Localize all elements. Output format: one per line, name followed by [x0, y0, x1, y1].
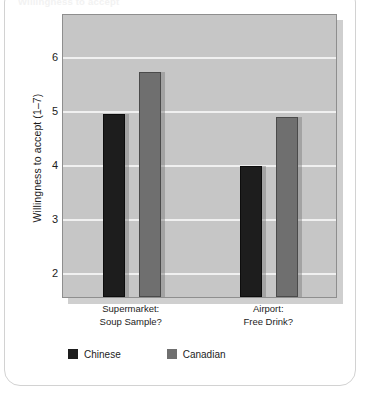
x-axis-group-label: Supermarket:Soup Sample?: [71, 303, 191, 328]
plot-area: [62, 14, 337, 298]
bar-canadian-0: [139, 72, 161, 297]
x-axis-tick-labels: Supermarket:Soup Sample?Airport:Free Dri…: [62, 303, 337, 333]
chart-legend: ChineseCanadian: [62, 345, 337, 363]
legend-label: Chinese: [84, 349, 121, 360]
gridline: [63, 57, 336, 59]
y-axis-tick-labels: 23456: [30, 14, 58, 298]
legend-item-chinese[interactable]: Chinese: [68, 349, 121, 360]
y-axis-tick-label: 2: [34, 267, 58, 279]
legend-item-canadian[interactable]: Canadian: [167, 349, 226, 360]
x-axis-label-line: Supermarket:: [71, 303, 191, 316]
y-axis-tick-label: 5: [34, 105, 58, 117]
legend-swatch-icon: [68, 349, 78, 359]
legend-swatch-icon: [167, 349, 177, 359]
bar-canadian-1: [276, 117, 298, 297]
x-axis-label-line: Free Drink?: [208, 316, 328, 329]
y-axis-tick-label: 4: [34, 159, 58, 171]
bar-chinese-1: [240, 166, 262, 297]
bar-chinese-0: [103, 114, 125, 297]
legend-label: Canadian: [183, 349, 226, 360]
y-axis-tick-label: 6: [34, 51, 58, 63]
x-axis-group-label: Airport:Free Drink?: [208, 303, 328, 328]
x-axis-label-line: Soup Sample?: [71, 316, 191, 329]
bar-chart-figure: Willingness to accept (1–7) 23456 Superm…: [0, 0, 370, 395]
gridline: [63, 111, 336, 113]
y-axis-tick-label: 3: [34, 213, 58, 225]
x-axis-label-line: Airport:: [208, 303, 328, 316]
